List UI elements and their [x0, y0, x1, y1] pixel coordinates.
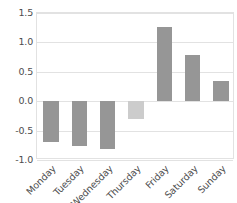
y-axis: 1.51.00.50.0-0.5-1.0	[0, 12, 33, 159]
gridline	[37, 13, 233, 14]
bar	[100, 101, 116, 149]
bar	[128, 101, 144, 119]
y-tick-label: 0.5	[1, 65, 33, 76]
y-tick-label: 1.5	[1, 7, 33, 18]
bar-chart: 1.51.00.50.0-0.5-1.0 MondayTuesdayWednes…	[0, 0, 237, 203]
bar	[157, 27, 173, 101]
x-axis: MondayTuesdayWednesdayThursdayFridaySatu…	[36, 160, 234, 203]
y-tick-label: -0.5	[1, 124, 33, 135]
y-tick-label: 0.0	[1, 95, 33, 106]
y-tick-label: -1.0	[1, 154, 33, 165]
gridline	[37, 42, 233, 43]
gridline	[37, 131, 233, 132]
bar	[185, 55, 201, 101]
plot-area	[36, 12, 234, 159]
bar	[43, 101, 59, 142]
gridline	[37, 72, 233, 73]
bar	[213, 81, 229, 101]
y-tick-label: 1.0	[1, 36, 33, 47]
bar	[72, 101, 88, 146]
